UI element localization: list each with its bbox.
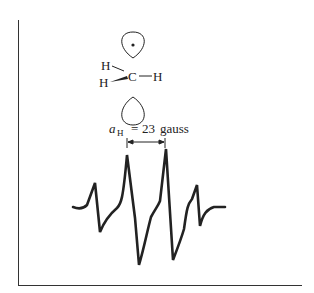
wedge-bond (110, 76, 128, 82)
epr-figure: H C H H a H = 23 gauss (0, 0, 314, 293)
epr-spectrum-trace (73, 149, 225, 265)
coupling-symbol: a (109, 121, 116, 136)
equals-sign: = (131, 121, 138, 136)
coupling-arrow (127, 138, 165, 148)
atom-c: C (128, 69, 137, 84)
atom-h3: H (99, 75, 108, 90)
atom-h2: H (153, 69, 162, 84)
coupling-subscript: H (117, 128, 124, 138)
unpaired-electron-dot (131, 43, 134, 46)
atom-h1: H (101, 58, 110, 73)
coupling-unit: gauss (160, 121, 189, 136)
coupling-value: 23 (142, 121, 155, 136)
